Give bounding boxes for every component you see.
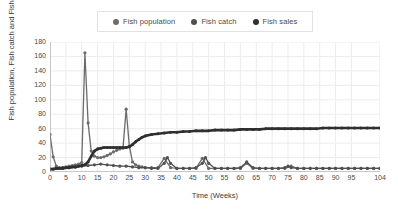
chart-legend: Fish population Fish catch Fish sales: [97, 11, 313, 32]
y-tick-label: 80: [22, 110, 46, 117]
y-tick-label: 60: [22, 125, 46, 132]
legend-marker-fish-population: [113, 19, 119, 25]
y-axis-ticks: 020406080100120140160180: [20, 42, 46, 172]
y-tick-label: 20: [22, 154, 46, 161]
series-lines: [50, 51, 380, 170]
gridlines: [50, 42, 380, 172]
fish-chart: Fish population Fish catch Fish sales Fi…: [0, 0, 398, 209]
y-tick-label: 160: [22, 52, 46, 59]
x-tick-label: 104: [370, 174, 390, 181]
legend-item-fish-sales[interactable]: Fish sales: [253, 17, 298, 26]
legend-item-fish-catch[interactable]: Fish catch: [191, 17, 236, 26]
legend-marker-fish-catch: [191, 19, 197, 25]
y-tick-label: 140: [22, 67, 46, 74]
y-tick-label: 100: [22, 96, 46, 103]
y-axis-title: Fish population, Fish catch and Fish sal…: [7, 0, 16, 121]
legend-label-fish-sales: Fish sales: [263, 17, 298, 26]
y-tick-label: 120: [22, 81, 46, 88]
x-axis-title: Time (Weeks): [50, 191, 380, 200]
y-tick-label: 180: [22, 38, 46, 45]
y-tick-label: 40: [22, 139, 46, 146]
x-axis-ticks: 0510152025303540455055606570758085909510…: [50, 174, 380, 186]
legend-marker-fish-sales: [253, 19, 259, 25]
x-tick-label: 95: [341, 174, 361, 181]
axis-lines: [50, 42, 380, 172]
plot-svg: [50, 42, 380, 172]
legend-label-fish-catch: Fish catch: [201, 17, 236, 26]
plot-area: [50, 42, 380, 172]
legend-label-fish-population: Fish population: [123, 17, 175, 26]
legend-item-fish-population[interactable]: Fish population: [113, 17, 175, 26]
